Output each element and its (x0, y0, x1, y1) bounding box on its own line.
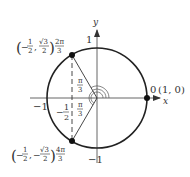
svg-text:3: 3 (78, 86, 82, 94)
unit-circle-diagram: y x 1 −1 −1 0 (1, 0) ( − 1 2 , √3 2 ) 2π… (0, 0, 190, 177)
coord-label-4pi3: ( − 1 2 , − √3 2 ) 4π 3 (11, 146, 65, 165)
svg-text:√3: √3 (40, 146, 49, 154)
svg-text:3: 3 (57, 47, 61, 55)
svg-text:3: 3 (58, 155, 62, 163)
svg-text:1: 1 (64, 103, 69, 112)
x-projection-label: − 1 2 (56, 103, 69, 122)
y-axis-label: y (92, 17, 99, 27)
svg-text:): ) (50, 147, 56, 165)
svg-text:4π: 4π (56, 146, 65, 154)
svg-text:,: , (29, 150, 32, 160)
svg-text:2: 2 (23, 155, 27, 163)
svg-text:1: 1 (23, 146, 27, 154)
point-zero (144, 95, 150, 101)
inner-angle-label-lower: π 3 (77, 101, 83, 118)
svg-text:2: 2 (43, 155, 47, 163)
coord-label-2pi3: ( − 1 2 , √3 2 ) 2π 3 (16, 38, 64, 57)
svg-text:π: π (78, 101, 83, 109)
inner-angle-label-upper: π 3 (77, 77, 83, 94)
svg-text:−: − (56, 107, 64, 117)
angle-zero-label: 0 (150, 84, 156, 95)
svg-text:2: 2 (28, 47, 32, 55)
svg-text:): ) (49, 39, 55, 57)
radius-4pi3 (72, 98, 97, 141)
svg-text:1: 1 (28, 38, 32, 46)
svg-text:2: 2 (42, 47, 46, 55)
tick-neg-y: −1 (88, 154, 103, 165)
svg-text:π: π (78, 77, 83, 85)
svg-text:2: 2 (64, 113, 69, 122)
radius-2pi3 (72, 55, 97, 98)
svg-text:,: , (34, 42, 37, 52)
svg-text:2π: 2π (55, 38, 64, 46)
x-axis-label: x (163, 96, 168, 106)
coord-zero-label: (1, 0) (158, 84, 185, 95)
tick-neg-x: −1 (33, 101, 48, 112)
point-2pi3 (69, 52, 75, 58)
point-4pi3 (69, 138, 75, 144)
tick-pos-y: 1 (86, 34, 92, 45)
svg-text:3: 3 (78, 110, 82, 118)
svg-text:√3: √3 (39, 38, 48, 46)
